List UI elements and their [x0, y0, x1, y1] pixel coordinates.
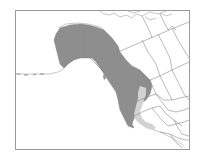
range-map: [0, 0, 200, 160]
